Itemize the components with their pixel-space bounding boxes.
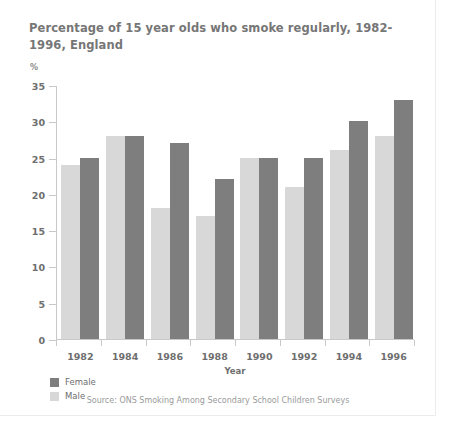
y-axis-tick-label: 5	[20, 300, 45, 310]
x-axis-tick	[146, 340, 147, 346]
y-axis-tick-label: 30	[20, 118, 45, 128]
y-axis-tick	[49, 304, 56, 305]
plot-area: 05101520253035 1982198419861988199019921…	[56, 86, 414, 340]
x-axis-tick	[414, 340, 415, 346]
bar-female-1988	[215, 179, 234, 339]
y-axis-tick-label: 0	[20, 336, 45, 346]
bar-female-1982	[80, 158, 99, 339]
y-axis-tick	[49, 340, 56, 341]
x-axis-tick	[56, 340, 57, 346]
bar-female-1996	[394, 100, 413, 339]
y-axis-unit-label: %	[30, 63, 38, 72]
y-axis-tick-label: 10	[20, 263, 45, 273]
x-axis-tick	[325, 340, 326, 346]
chart-card: Percentage of 15 year olds who smoke reg…	[0, 0, 436, 416]
bar-male-1994	[330, 150, 349, 339]
bar-male-1984	[106, 136, 125, 339]
x-axis-tick	[190, 340, 191, 346]
bar-female-1994	[349, 121, 368, 339]
y-axis-line	[56, 86, 57, 341]
chart-title: Percentage of 15 year olds who smoke reg…	[29, 20, 419, 54]
x-axis-title: Year	[56, 366, 414, 376]
source-note: Source: ONS Smoking Among Secondary Scho…	[0, 396, 436, 405]
x-axis-tick	[369, 340, 370, 346]
y-axis-tick	[49, 231, 56, 232]
y-axis-tick	[49, 267, 56, 268]
x-axis-tick	[235, 340, 236, 346]
bar-female-1990	[259, 158, 278, 339]
x-axis-tick-label: 1996	[364, 351, 424, 362]
bar-male-1996	[375, 136, 394, 339]
y-axis-tick	[49, 159, 56, 160]
y-axis-tick	[49, 195, 56, 196]
bar-male-1982	[61, 165, 80, 339]
bar-female-1986	[170, 143, 189, 339]
bar-female-1992	[304, 158, 323, 339]
y-axis-tick	[49, 122, 56, 123]
y-axis-tick-label: 25	[20, 155, 45, 165]
bar-male-1990	[240, 158, 259, 339]
legend-label: Female	[65, 377, 96, 387]
y-axis-tick-label: 15	[20, 227, 45, 237]
bar-male-1988	[196, 216, 215, 339]
legend-swatch-female-icon	[50, 378, 59, 387]
x-axis-tick	[101, 340, 102, 346]
y-axis-tick	[49, 86, 56, 87]
bar-male-1992	[285, 187, 304, 339]
legend-item-female: Female	[50, 376, 96, 388]
y-axis-tick-label: 20	[20, 191, 45, 201]
y-axis-tick-label: 35	[20, 82, 45, 92]
x-axis-tick	[280, 340, 281, 346]
bar-female-1984	[125, 136, 144, 339]
bar-male-1986	[151, 208, 170, 339]
